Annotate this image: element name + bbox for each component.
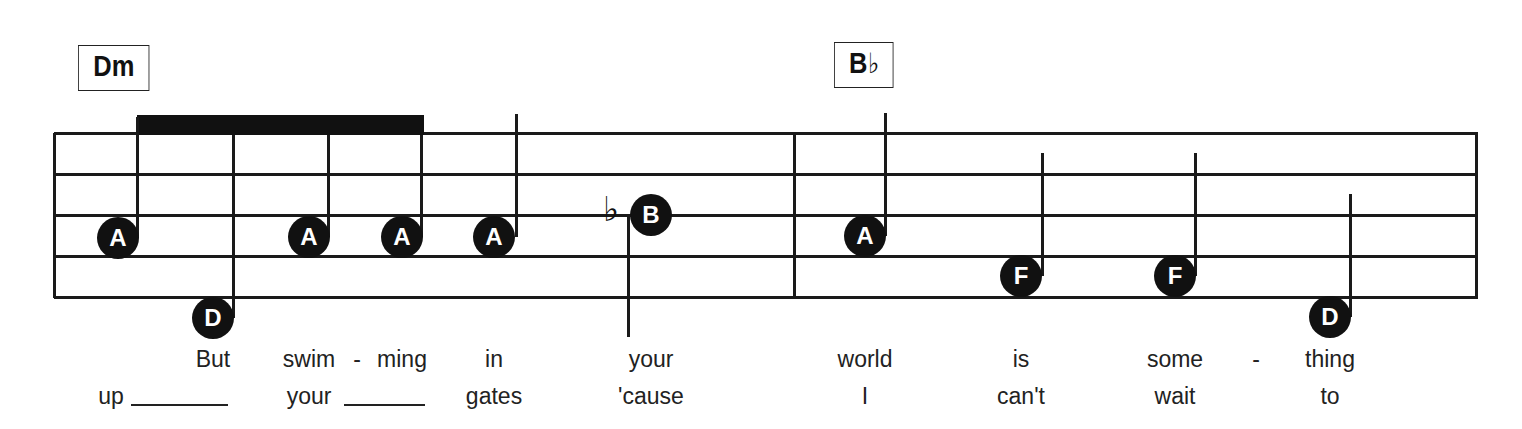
lyric-extender-line	[344, 404, 425, 406]
note-d: D	[192, 297, 234, 339]
barline	[1475, 133, 1478, 298]
lyric-verse-2: wait	[1155, 383, 1196, 409]
lyric-verse-2: your	[287, 383, 332, 409]
staff-line	[54, 214, 1478, 217]
flat-icon: ♭	[868, 48, 879, 79]
note-b: B	[630, 194, 672, 236]
note-stem	[232, 135, 235, 318]
lyric-verse-1: swim	[283, 346, 335, 372]
flat-icon: ♭	[603, 192, 619, 226]
note-stem	[136, 117, 139, 238]
staff-line	[54, 173, 1478, 176]
lyric-verse-2: can't	[997, 383, 1045, 409]
lyric-verse-1: -	[353, 346, 361, 372]
lyric-verse-1: thing	[1305, 346, 1355, 372]
lyric-verse-1: your	[629, 346, 674, 372]
lyric-verse-2: I	[862, 383, 868, 409]
note-f: F	[1000, 255, 1042, 297]
note-a: A	[473, 216, 515, 258]
note-a: A	[97, 217, 139, 259]
lyric-verse-1: ming	[377, 346, 427, 372]
lyric-verse-1: But	[196, 346, 231, 372]
note-stem	[884, 113, 887, 236]
note-a: A	[288, 216, 330, 258]
lyric-verse-2: 'cause	[618, 383, 684, 409]
note-a: A	[844, 215, 886, 257]
note-stem	[627, 215, 630, 337]
chord-root: Dm	[93, 49, 134, 82]
note-stem	[327, 135, 330, 237]
lyric-verse-1: -	[1252, 346, 1260, 372]
lyric-extender-line	[131, 404, 228, 406]
lyric-verse-1: world	[838, 346, 893, 372]
chord-root: B	[849, 46, 867, 79]
lyric-verse-2: gates	[466, 383, 522, 409]
note-stem	[1194, 153, 1197, 276]
note-stem	[1041, 153, 1044, 276]
note-stem	[515, 114, 518, 237]
note-d: D	[1309, 296, 1351, 338]
lyric-verse-1: in	[485, 346, 503, 372]
lyric-verse-2: up	[98, 383, 124, 409]
lyric-verse-2: to	[1320, 383, 1339, 409]
staff-line	[54, 296, 1478, 299]
chord-symbol: Dm	[78, 45, 150, 91]
note-stem	[420, 135, 423, 237]
barline	[793, 133, 796, 298]
lyric-verse-1: is	[1013, 346, 1030, 372]
barline	[53, 133, 56, 298]
beam	[137, 115, 424, 135]
note-f: F	[1154, 255, 1196, 297]
note-a: A	[381, 216, 423, 258]
staff-line	[54, 255, 1478, 258]
chord-symbol: B♭	[834, 42, 894, 88]
note-stem	[1349, 194, 1352, 317]
lyric-verse-1: some	[1147, 346, 1203, 372]
